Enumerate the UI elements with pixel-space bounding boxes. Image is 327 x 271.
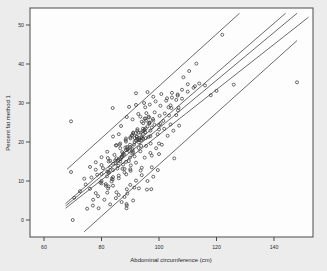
y-axis-title: Percent fat method 1 — [5, 94, 11, 150]
y-tick-label: 0 — [21, 217, 24, 223]
x-tick-label: 140 — [270, 244, 279, 250]
y-tick-label: 20 — [18, 139, 24, 145]
x-tick-label: 100 — [155, 244, 164, 250]
y-tick-label: 30 — [18, 100, 24, 106]
y-tick-label: 50 — [18, 22, 24, 28]
y-tick-label: 10 — [18, 178, 24, 184]
scatter-plot-svg: 6080100120140 01020304050 Abdominal circ… — [0, 0, 327, 271]
chart-figure: 6080100120140 01020304050 Abdominal circ… — [0, 0, 327, 271]
x-tick-label: 80 — [99, 244, 105, 250]
x-tick-label: 120 — [212, 244, 221, 250]
x-tick-label: 60 — [41, 244, 47, 250]
y-axis-ticks: 01020304050 — [18, 22, 30, 223]
x-axis-title: Abdominal circumference (cm) — [130, 257, 211, 263]
y-tick-label: 40 — [18, 61, 24, 67]
x-axis-ticks: 6080100120140 — [41, 237, 278, 250]
